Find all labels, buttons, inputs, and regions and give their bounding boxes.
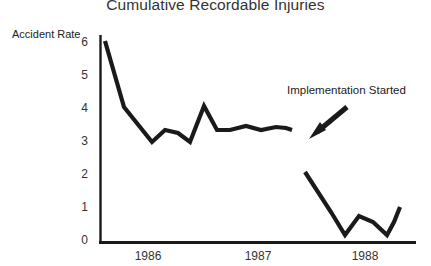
implementation-arrow-icon — [309, 107, 347, 139]
data-line-after-implementation — [305, 172, 400, 235]
data-line-before-implementation — [105, 41, 292, 142]
chart-screenshot: Cumulative Recordable Injuries Accident … — [0, 0, 431, 266]
plot-area — [0, 0, 431, 266]
